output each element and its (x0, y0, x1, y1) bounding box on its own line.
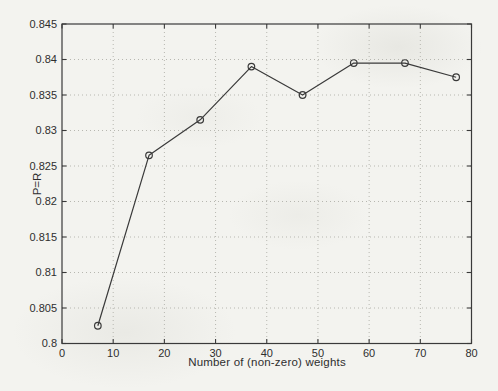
y-tick-label: 0.815 (29, 231, 57, 243)
y-tick-label: 0.8 (42, 337, 57, 349)
y-tick-label: 0.825 (29, 160, 57, 172)
x-axis-label: Number of (non-zero) weights (62, 356, 472, 368)
y-tick-label: 0.81 (36, 266, 57, 278)
line-chart-canvas: 010203040506070800.80.8050.810.8150.820.… (0, 0, 498, 391)
y-axis-label: P=R (31, 173, 43, 196)
y-tick-label: 0.805 (29, 302, 57, 314)
y-tick-label: 0.84 (36, 53, 57, 65)
scanned-figure: 010203040506070800.80.8050.810.8150.820.… (0, 0, 498, 391)
axis-box (62, 24, 472, 344)
data-line (98, 63, 456, 326)
y-tick-label: 0.82 (36, 195, 57, 207)
y-tick-label: 0.835 (29, 89, 57, 101)
y-tick-label: 0.845 (29, 18, 57, 30)
y-tick-label: 0.83 (36, 124, 57, 136)
